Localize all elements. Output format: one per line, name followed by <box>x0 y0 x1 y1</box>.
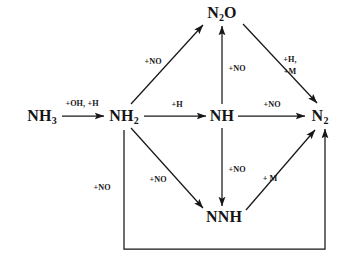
edge-label-nh2-n2o: +NO <box>144 57 161 67</box>
edge-label-nh2-nnh: +NO <box>149 175 166 185</box>
edge-nh2-n2o <box>131 25 203 104</box>
edge-label-n2o-n2-line1: +H, <box>283 54 296 66</box>
edge-label-n2o-n2-line2: +M <box>283 66 296 78</box>
node-nh: NH <box>210 108 234 124</box>
edge-label-nh-n2: +NO <box>263 100 280 110</box>
edge-nh2-n2-loop <box>124 129 325 249</box>
reaction-pathway-diagram: NH3 NH2 NH N2O N2 NNH +OH, +H +NO +H +NO… <box>0 0 344 264</box>
edge-label-nh-n2o: +NO <box>228 64 245 74</box>
diagram-canvas <box>0 0 344 264</box>
node-nh3: NH3 <box>27 108 56 124</box>
edge-label-nh2-nh: +H <box>171 100 182 110</box>
edge-label-nnh-n2: + M <box>263 174 278 184</box>
edge-nh2-nnh <box>131 128 203 208</box>
edge-label-nh-nnh: +NO <box>228 165 245 175</box>
node-n2o: N2O <box>207 5 236 21</box>
edge-n2o-n2 <box>243 24 317 103</box>
edge-label-n2o-n2: +H, +M <box>283 54 296 78</box>
edge-label-nh2-n2-loop: +NO <box>93 183 110 193</box>
edge-nnh-n2 <box>246 130 315 210</box>
node-nh2: NH2 <box>109 108 138 124</box>
edge-label-nh3-nh2: +OH, +H <box>65 99 98 109</box>
node-nnh: NNH <box>206 209 242 225</box>
node-n2: N2 <box>312 108 329 124</box>
